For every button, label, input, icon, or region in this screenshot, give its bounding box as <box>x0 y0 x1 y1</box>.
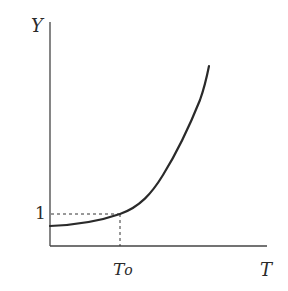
curve-line <box>50 66 209 226</box>
x-tick-main: T <box>113 259 124 279</box>
x-tick-label-t0: To <box>113 259 133 279</box>
y-axis-label: Y <box>31 15 43 36</box>
y-tick-label-1: 1 <box>35 203 46 223</box>
x-tick-subscript: o <box>124 262 132 278</box>
diagram-canvas <box>0 0 288 291</box>
x-axis-label: T <box>260 259 272 280</box>
